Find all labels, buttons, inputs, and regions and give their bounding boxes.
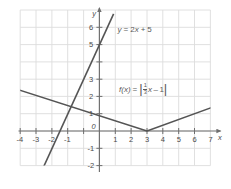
x-tick-label--2: -2 (48, 136, 55, 144)
abs-eq-minus: – (153, 85, 157, 94)
origin-label: 0 (92, 122, 96, 131)
x-tick-label-4: 4 (161, 136, 165, 144)
y-tick-label-5: 5 (89, 41, 93, 49)
x-tick-label-7: 7 (208, 136, 212, 144)
abs-eq-fraction: 13 (143, 83, 147, 96)
x-tick-label-1: 1 (113, 136, 117, 144)
x-axis-label: x (218, 133, 222, 142)
linear-eq-plus: + (141, 25, 146, 34)
x-tick-label-2: 2 (129, 136, 133, 144)
linear-eq-lhs: y (118, 25, 122, 34)
absolute-value-equation-label: f(x)=|13x–1| (119, 84, 167, 97)
abs-bar-right-icon: | (164, 84, 167, 94)
graph-canvas (0, 0, 231, 189)
linear-equation-label: y=2x+5 (118, 25, 152, 34)
linear-eq-variable: x (135, 25, 139, 34)
x-tick-label--3: -3 (32, 136, 39, 144)
abs-eq-variable: x (148, 85, 152, 94)
y-tick-label-3: 3 (89, 76, 93, 84)
x-tick-label-3: 3 (145, 136, 149, 144)
linear-eq-constant: 5 (147, 25, 151, 34)
x-tick-label-5: 5 (177, 136, 181, 144)
y-tick-label--1: -1 (87, 145, 94, 153)
abs-bar-left-icon: | (139, 84, 142, 94)
y-tick-label-2: 2 (89, 93, 93, 101)
y-tick-label-6: 6 (89, 24, 93, 32)
y-axis-label: y (92, 9, 96, 18)
abs-eq-denominator: 3 (143, 90, 147, 96)
abs-eq-argument: (x) (121, 85, 130, 94)
y-tick-label-1: 1 (89, 110, 93, 118)
abs-eq-operator: = (133, 85, 138, 94)
x-tick-label--1: -1 (64, 136, 71, 144)
x-tick-label-6: 6 (193, 136, 197, 144)
linear-curve (33, 14, 114, 189)
x-tick-label--4: -4 (17, 136, 24, 144)
coordinate-plane-graph: -4 -3 -2 -1 1 2 3 4 5 6 7 6 5 3 2 1 -1 -… (0, 0, 231, 189)
y-tick-label--2: -2 (87, 162, 94, 170)
linear-eq-operator: = (124, 25, 129, 34)
